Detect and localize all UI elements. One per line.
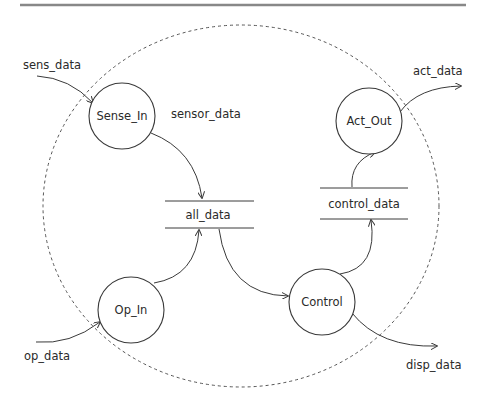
process-op-in[interactable]: Op_In: [98, 277, 164, 343]
flow-alldata-control-arrow: [219, 229, 288, 296]
flow-sens-data-arrow: [37, 76, 93, 103]
process-control[interactable]: Control: [289, 269, 355, 335]
process-label: Act_Out: [346, 114, 392, 128]
process-act-out[interactable]: Act_Out: [336, 88, 402, 154]
store-control-data[interactable]: control_data: [320, 188, 408, 219]
flow-label-disp-data: disp_data: [406, 358, 461, 372]
store-label: control_data: [328, 197, 400, 211]
flow-label-sens-data: sens_data: [23, 58, 81, 72]
flow-opin-alldata-arrow: [154, 230, 199, 283]
flow-disp-data-arrow: [352, 313, 437, 346]
flow-sensor-data-arrow: [151, 133, 202, 198]
flow-act-data-arrow: [400, 86, 461, 112]
flow-label-act-data: act_data: [413, 64, 463, 78]
process-sense-in[interactable]: Sense_In: [89, 83, 155, 149]
process-label: Op_In: [115, 303, 148, 317]
flow-controldata-actout-arrow: [352, 152, 375, 187]
process-label: Sense_In: [96, 109, 147, 123]
store-all-data[interactable]: all_data: [165, 201, 254, 228]
process-label: Control: [301, 295, 343, 309]
data-flow-diagram: Sense_In Act_Out Op_In Control all_data …: [0, 0, 480, 401]
flow-label-sensor-data: sensor_data: [171, 107, 241, 121]
store-label: all_data: [185, 208, 230, 222]
flow-op-data-arrow: [36, 322, 100, 342]
flow-control-controldata-arrow: [340, 220, 372, 274]
flow-label-op-data: op_data: [24, 349, 70, 363]
